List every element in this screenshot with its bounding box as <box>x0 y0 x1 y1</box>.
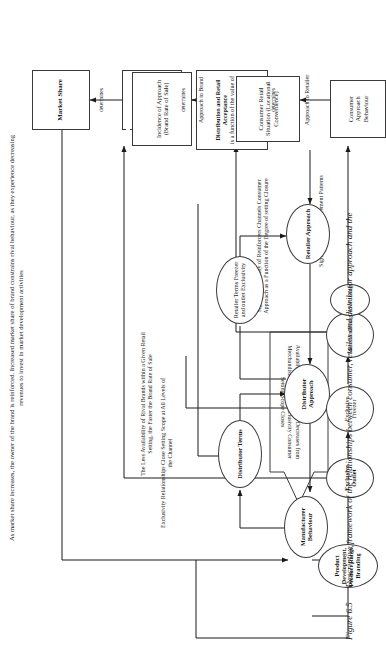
rival-brands-note: The Less Availability of Rival Brands wi… <box>140 328 154 480</box>
node-consumer-retail-situation-rendered[interactable]: Consumer Retail Situation (Locational Co… <box>236 76 300 142</box>
node-manufacturer-behaviour[interactable]: Manufacturer Behaviour <box>284 496 328 558</box>
node-distributor-terms[interactable]: Distributor Terms <box>218 420 262 488</box>
edge-label-approach-to-retailer: Approach to Retailer <box>304 72 311 128</box>
node-retailer-terms[interactable]: Retailer Terms Freezer and outlet Exclus… <box>216 256 264 324</box>
dra-title: Distribution and Retail Acceptance <box>215 73 229 147</box>
edge-label-determines-3: determines <box>270 76 276 124</box>
node-incidence-of-approach-main[interactable] <box>96 140 100 144</box>
node-incidence-of-approach-visible[interactable] <box>126 74 130 146</box>
node-incidence-of-approach-real[interactable] <box>104 144 108 148</box>
incidence-sub: (Brand Rate of Sale) <box>162 83 169 136</box>
node-consumer-retail-situation[interactable] <box>216 142 220 146</box>
edge-label-determines-1: determines <box>98 76 104 124</box>
edge-label-determines-2: determines <box>180 76 186 124</box>
exclusivity-note: Exclusivity Relationships Close Setting … <box>160 378 174 528</box>
node-consumer-approach-behaviour[interactable]: Consumer Approach Behaviour <box>330 80 386 138</box>
node-retailer-approach[interactable]: Retailer Approach <box>286 204 330 264</box>
market-share-note: As market share increases, the owner of … <box>8 128 25 548</box>
edge-label-approach-to-brand: Approach to Brand <box>198 72 205 128</box>
figure-caption-number: Figure 6.5 <box>344 602 354 640</box>
incidence-title: Incidence of Approach <box>155 80 162 138</box>
figure-caption-text: Descriptive framework of the relationshi… <box>344 213 354 588</box>
node-market-share[interactable]: Market Share <box>32 70 90 130</box>
figure-caption: Figure 6.5 Descriptive framework of the … <box>344 213 354 640</box>
node-distributor-approach[interactable]: Distributor Approach <box>284 364 330 424</box>
